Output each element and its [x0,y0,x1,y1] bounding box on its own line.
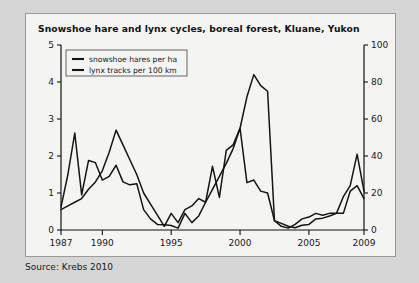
figure-root: Snowshoe hare and lynx cycles, boreal fo… [0,0,419,283]
y-tick-label-right: 60 [371,114,383,124]
chart-legend: snowshoe hares per halynx tracks per 100… [66,50,187,76]
y-tick-label-right: 100 [371,40,388,50]
legend-label-snowshoe-hares: snowshoe hares per ha [89,55,177,64]
y-tick-label-left: 0 [48,225,54,235]
plot-area: 0123450204060801001987199019952000200520… [26,14,397,258]
chart-card: Snowshoe hare and lynx cycles, boreal fo… [25,13,396,257]
series-line-snowshoe-hares [61,128,364,228]
source-caption: Source: Krebs 2010 [25,262,113,272]
x-tick-label: 1990 [91,238,114,248]
series-line-lynx-tracks [61,75,364,229]
y-tick-label-left: 3 [48,114,54,124]
legend-label-lynx-tracks: lynx tracks per 100 km [89,66,177,75]
x-tick-label: 2000 [229,238,252,248]
x-tick-label: 2005 [297,238,320,248]
y-tick-label-left: 5 [48,40,54,50]
y-axis-left-ticks: 012345 [48,40,61,235]
x-tick-label: 1995 [160,238,183,248]
x-tick-label: 1987 [50,238,73,248]
y-tick-label-right: 80 [371,77,383,87]
y-tick-label-right: 20 [371,188,383,198]
y-tick-label-left: 4 [48,77,54,87]
y-tick-label-right: 40 [371,151,383,161]
y-tick-label-left: 1 [48,188,54,198]
y-tick-label-right: 0 [371,225,377,235]
y-axis-right-ticks: 020406080100 [364,40,388,235]
x-axis-ticks: 198719901995200020052009 [50,230,376,248]
line-chart-svg: 0123450204060801001987199019952000200520… [26,14,397,258]
x-tick-label: 2009 [353,238,376,248]
y-tick-label-left: 2 [48,151,54,161]
